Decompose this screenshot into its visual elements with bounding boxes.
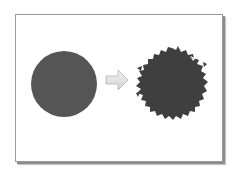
- roughened-circle-fragment: [203, 62, 207, 67]
- roughened-circle-fragment: [136, 92, 140, 97]
- roughened-circle: [136, 46, 208, 120]
- diagram-canvas: [0, 0, 236, 177]
- original-circle: [31, 51, 97, 117]
- roughened-circle-fragment: [137, 66, 142, 71]
- transform-arrow-icon: [106, 70, 128, 90]
